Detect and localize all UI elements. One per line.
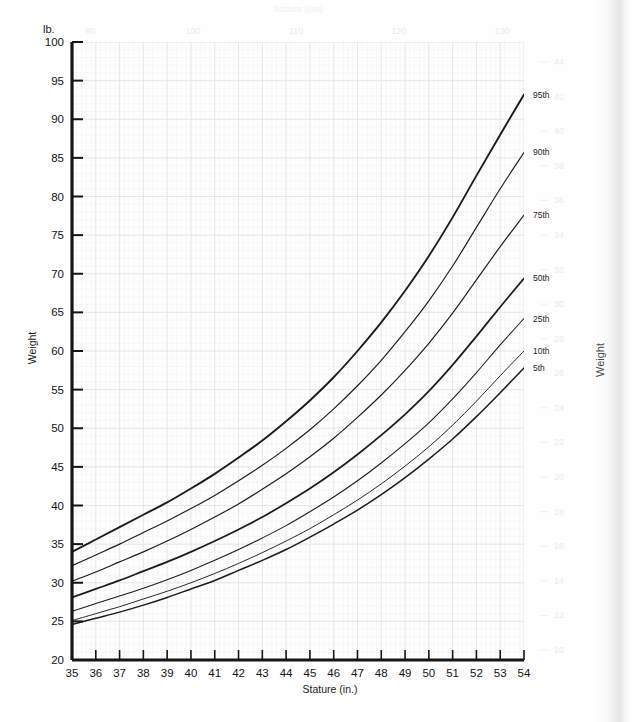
right-tick-label: 26: [554, 368, 564, 378]
right-tick-label: 42: [554, 92, 564, 102]
right-tick-label: 14: [554, 576, 564, 586]
right-tick-label: 18: [554, 507, 564, 517]
y-tick-label: 65: [51, 306, 64, 318]
right-tick-label: 30: [554, 299, 564, 309]
percentile-label-10th: 10th: [533, 346, 550, 356]
y-tick-label: 55: [51, 384, 64, 396]
right-tick-label: 36: [554, 195, 564, 205]
percentile-curves: [72, 95, 524, 625]
x-tick-label: 38: [137, 667, 150, 679]
right-tick-label: 20: [554, 472, 564, 482]
right-tick-label: 32: [554, 265, 564, 275]
x-tick-label: 46: [327, 667, 340, 679]
right-tick-label: 16: [554, 541, 564, 551]
x-tick-label: 47: [351, 667, 364, 679]
right-tick-label: 34: [554, 230, 564, 240]
right-tick-label: 38: [554, 161, 564, 171]
percentile-curve-90th: [72, 152, 524, 565]
y-tick-label: 25: [51, 615, 64, 627]
y-tick-label: 50: [51, 422, 64, 434]
top-tick-label: 130: [494, 26, 509, 36]
x-tick-label: 52: [470, 667, 483, 679]
secondary-axis-top: Stature (cm) 90100110120130: [85, 4, 510, 36]
secondary-axis-right: Weight 444240383634323028262422201816141…: [540, 57, 606, 655]
percentile-curve-95th: [72, 95, 524, 552]
x-tick-label: 51: [446, 667, 459, 679]
percentile-label-75th: 75th: [533, 210, 550, 220]
percentile-label-90th: 90th: [533, 147, 550, 157]
y-tick-label: 85: [51, 152, 64, 164]
y-tick-label: 60: [51, 345, 64, 357]
x-axis-title: Stature (in.): [303, 683, 358, 695]
percentile-curve-50th: [72, 278, 524, 597]
x-tick-label: 44: [280, 667, 293, 679]
top-tick-label: 90: [85, 26, 95, 36]
y-tick-label: 35: [51, 538, 64, 550]
x-tick-label: 39: [161, 667, 174, 679]
right-tick-label: 10: [554, 645, 564, 655]
x-tick-label: 42: [232, 667, 245, 679]
right-axis-title: Weight: [594, 343, 606, 377]
top-axis-title: Stature (cm): [273, 4, 323, 14]
y-tick-label: 80: [51, 191, 64, 203]
x-tick-label: 43: [256, 667, 269, 679]
y-axis-title: Weight: [26, 332, 38, 365]
x-tick-label: 40: [185, 667, 198, 679]
y-tick-label: 90: [51, 113, 64, 125]
right-tick-label: 12: [554, 610, 564, 620]
chart-svg: Stature (cm) 90100110120130 Weight 44424…: [0, 0, 636, 722]
x-tick-label: 50: [422, 667, 435, 679]
top-tick-label: 110: [289, 26, 303, 36]
top-tick-label: 120: [391, 26, 406, 36]
percentile-label-5th: 5th: [533, 363, 545, 373]
top-tick-label: 100: [185, 26, 200, 36]
y-tick-labels: 20253035404550556065707580859095100: [45, 36, 64, 666]
y-tick-label: 45: [51, 461, 64, 473]
x-tick-label: 35: [66, 667, 79, 679]
x-tick-label: 41: [208, 667, 221, 679]
percentile-label-50th: 50th: [533, 273, 550, 283]
right-tick-label: 44: [554, 57, 564, 67]
right-tick-label: 22: [554, 437, 564, 447]
y-tick-label: 100: [45, 36, 64, 48]
percentile-label-95th: 95th: [533, 90, 550, 100]
percentile-curve-10th: [72, 351, 524, 621]
right-tick-label: 28: [554, 334, 564, 344]
y-tick-label: 75: [51, 229, 64, 241]
percentile-label-25th: 25th: [533, 314, 550, 324]
x-tick-labels: 3536373839404142434445464748495051525354: [66, 667, 531, 679]
x-tick-label: 53: [494, 667, 507, 679]
y-tick-label: 95: [51, 75, 64, 87]
x-tick-label: 48: [375, 667, 388, 679]
percentile-curve-75th: [72, 215, 524, 581]
growth-chart: Stature (cm) 90100110120130 Weight 44424…: [0, 0, 636, 722]
x-tick-label: 45: [303, 667, 316, 679]
y-tick-label: 20: [51, 654, 64, 666]
y-tick-label: 30: [51, 577, 64, 589]
percentile-labels: 95th90th75th50th25th10th5th: [533, 90, 550, 373]
y-axis-unit: lb.: [43, 23, 55, 35]
scanned-page: Stature (cm) 90100110120130 Weight 44424…: [0, 0, 636, 722]
y-tick-label: 70: [51, 268, 64, 280]
x-tick-label: 54: [518, 667, 531, 679]
x-tick-label: 37: [113, 667, 126, 679]
y-tick-label: 40: [51, 500, 64, 512]
x-tick-label: 49: [399, 667, 412, 679]
right-tick-label: 40: [554, 126, 564, 136]
right-tick-label: 24: [554, 403, 564, 413]
x-tick-label: 36: [89, 667, 102, 679]
